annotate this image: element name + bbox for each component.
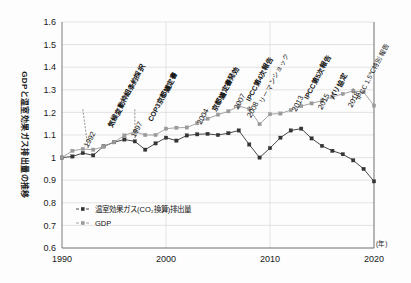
y-axis-title: GDPと温室効果ガス排出量の推移 <box>20 71 30 199</box>
data-point-marker <box>81 151 84 154</box>
legend-label: GDP <box>95 219 111 228</box>
data-point-marker <box>372 104 375 107</box>
data-point-marker <box>112 141 115 144</box>
data-point-marker <box>372 180 375 183</box>
data-point-marker <box>258 156 261 159</box>
data-point-marker <box>352 159 355 162</box>
data-point-marker <box>102 145 105 148</box>
data-point-marker <box>123 138 126 141</box>
data-point-marker <box>133 140 136 143</box>
x-tick-label: 2000 <box>156 254 176 264</box>
data-point-marker <box>310 102 313 105</box>
legend-label: 温室効果ガス(CO₂換算)排出量 <box>95 204 192 214</box>
data-point-marker <box>71 155 74 158</box>
data-point-marker <box>227 110 230 113</box>
data-point-marker <box>279 112 282 115</box>
data-point-marker <box>154 133 157 136</box>
chart-svg: 1.61.51.41.31.21.110.90.80.70.6 19902000… <box>0 0 411 283</box>
data-point-marker <box>164 127 167 130</box>
data-point-marker <box>216 133 219 136</box>
data-point-marker <box>268 113 271 116</box>
data-point-marker <box>362 167 365 170</box>
y-tick-label: 1.2 <box>43 108 56 118</box>
y-axis-label-text: GDPと温室効果ガス排出量の推移 <box>20 71 30 199</box>
data-point-marker <box>185 134 188 137</box>
y-tick-label: 0.8 <box>43 198 56 208</box>
x-axis-unit-label: (年) <box>376 239 387 248</box>
data-point-marker <box>92 148 95 151</box>
y-tick-label: 1.1 <box>43 130 56 140</box>
data-point-marker <box>289 129 292 132</box>
data-point-marker <box>227 131 230 134</box>
data-point-marker <box>320 144 323 147</box>
y-tick-label: 1.6 <box>43 17 56 27</box>
data-point-marker <box>175 139 178 142</box>
data-point-marker <box>81 147 84 150</box>
data-point-marker <box>310 137 313 140</box>
legend-marker-swatch <box>81 207 85 211</box>
data-point-marker <box>341 153 344 156</box>
data-point-marker <box>92 154 95 157</box>
x-tick-label: 1990 <box>52 254 72 264</box>
data-point-marker <box>268 146 271 149</box>
data-point-marker <box>206 132 209 135</box>
y-tick-label: 1.4 <box>43 62 56 72</box>
data-point-marker <box>258 122 261 125</box>
y-tick-label: 1.3 <box>43 85 56 95</box>
x-axis-unit: (年) <box>376 239 387 248</box>
y-tick-label: 1 <box>51 153 56 163</box>
y-tick-label: 0.6 <box>43 243 56 253</box>
data-point-marker <box>185 126 188 129</box>
data-point-marker <box>175 126 178 129</box>
y-tick-label: 1.5 <box>43 40 56 50</box>
data-point-marker <box>164 136 167 139</box>
x-tick-label: 2010 <box>260 254 280 264</box>
y-tick-label: 0.9 <box>43 175 56 185</box>
y-tick-label: 0.7 <box>43 221 56 231</box>
legend-marker-swatch <box>81 221 85 225</box>
data-point-marker <box>341 92 344 95</box>
data-point-marker <box>279 136 282 139</box>
data-point-marker <box>123 134 126 137</box>
data-point-marker <box>144 148 147 151</box>
data-point-marker <box>248 143 251 146</box>
chart-container: 1.61.51.41.31.21.110.90.80.70.6 19902000… <box>0 0 411 283</box>
data-point-marker <box>144 133 147 136</box>
x-tick-label: 2020 <box>364 254 384 264</box>
data-point-marker <box>300 127 303 130</box>
data-point-marker <box>196 133 199 136</box>
data-point-marker <box>154 142 157 145</box>
data-point-marker <box>71 149 74 152</box>
data-point-marker <box>216 113 219 116</box>
data-point-marker <box>237 129 240 132</box>
data-point-marker <box>60 156 63 159</box>
data-point-marker <box>331 149 334 152</box>
